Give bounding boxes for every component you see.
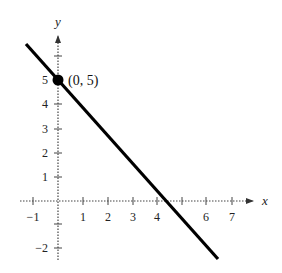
- y-tick-label: 1: [42, 170, 48, 184]
- coordinate-graph: −1 1 2 3 4 6 7 5 4 3 2 1 −2 x y (0, 5): [0, 0, 282, 273]
- x-tick-label: 2: [105, 210, 111, 224]
- x-tick-label: 1: [80, 210, 86, 224]
- x-tick-label: 3: [130, 210, 136, 224]
- y-tick-label: 3: [42, 122, 48, 136]
- x-tick-label: −1: [27, 210, 40, 224]
- y-tick-label: −2: [35, 241, 48, 255]
- x-tick-label: 6: [203, 210, 209, 224]
- x-tick-label: 7: [229, 210, 235, 224]
- x-axis-label: x: [261, 193, 268, 208]
- y-tick-label: 5: [42, 73, 48, 87]
- point-marker: [53, 75, 64, 86]
- y-axis-label: y: [53, 14, 61, 29]
- y-tick-label: 4: [42, 97, 48, 111]
- x-tick-label: 4: [154, 210, 160, 224]
- point-label: (0, 5): [68, 73, 99, 89]
- y-tick-label: 2: [42, 146, 48, 160]
